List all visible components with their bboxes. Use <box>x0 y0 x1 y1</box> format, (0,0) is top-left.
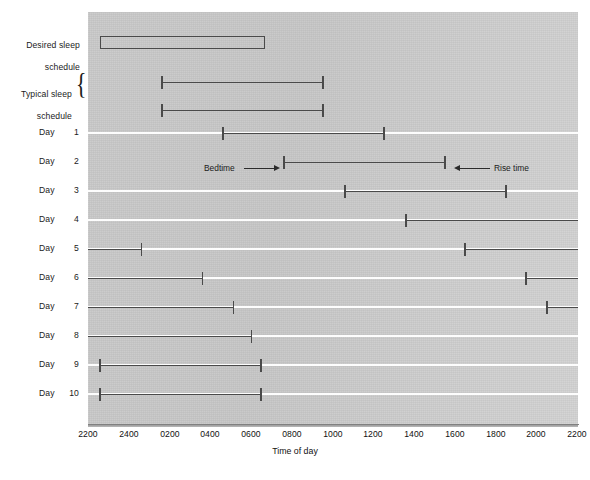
plot-area: Bedtime Rise time <box>88 12 578 424</box>
x-tick-label-7: 1200 <box>353 429 393 439</box>
sleep-schedule-figure: Bedtime Rise time Desired sleep schedule… <box>0 0 590 480</box>
row-label-day-9: Day9 <box>39 359 79 369</box>
day-word-5: Day <box>39 243 65 253</box>
bedtime-arrow-shaft <box>244 168 275 169</box>
row-label-day-5: Day5 <box>39 243 79 253</box>
day-number-7: 7 <box>65 301 79 311</box>
day-number-9: 9 <box>65 359 79 369</box>
row-label-day-6: Day6 <box>39 272 79 282</box>
row-label-day-10: Day10 <box>39 388 79 398</box>
desired-label-line2: schedule <box>4 62 80 73</box>
day-number-8: 8 <box>65 330 79 340</box>
x-tick-label-1: 2400 <box>109 429 149 439</box>
day-word-4: Day <box>39 214 65 224</box>
x-tick-label-4: 0600 <box>231 429 271 439</box>
day-word-2: Day <box>39 156 65 166</box>
row-label-day-3: Day3 <box>39 185 79 195</box>
x-axis-line <box>88 424 579 425</box>
row-label-day-8: Day8 <box>39 330 79 340</box>
day-number-1: 1 <box>65 127 79 137</box>
x-axis-title: Time of day <box>0 446 590 456</box>
row-label-desired-sleep-schedule: Desired sleep schedule <box>4 29 80 84</box>
day-word-7: Day <box>39 301 65 311</box>
day-number-5: 5 <box>65 243 79 253</box>
panel-texture <box>88 12 578 424</box>
typical-label-line2: schedule <box>4 111 72 122</box>
day-word-9: Day <box>39 359 65 369</box>
x-tick-label-3: 0400 <box>190 429 230 439</box>
typical-label-line1: Typical sleep <box>4 89 72 100</box>
x-tick-label-2: 0200 <box>150 429 190 439</box>
day-word-8: Day <box>39 330 65 340</box>
day-word-10: Day <box>39 388 65 398</box>
day-word-6: Day <box>39 272 65 282</box>
day-number-4: 4 <box>65 214 79 224</box>
x-tick-label-0: 2200 <box>68 429 108 439</box>
x-tick-label-8: 1400 <box>394 429 434 439</box>
x-tick-label-12: 2200 <box>557 429 590 439</box>
row-label-typical-sleep-schedule: Typical sleep schedule <box>4 78 72 133</box>
x-tick-label-6: 1000 <box>313 429 353 439</box>
x-tick-label-10: 1800 <box>476 429 516 439</box>
rise-time-arrow-shaft <box>459 168 490 169</box>
x-tick-label-9: 1600 <box>435 429 475 439</box>
x-tick-label-5: 0800 <box>272 429 312 439</box>
desired-sleep-schedule-bar <box>100 36 265 49</box>
day-number-10: 10 <box>65 388 79 398</box>
day-number-6: 6 <box>65 272 79 282</box>
day-word-1: Day <box>39 127 65 137</box>
bedtime-arrow-head-icon <box>274 165 280 171</box>
row-label-day-7: Day7 <box>39 301 79 311</box>
desired-label-line1: Desired sleep <box>4 40 80 51</box>
rise-time-label: Rise time <box>494 163 529 173</box>
wake-marker <box>444 156 446 169</box>
bedtime-label: Bedtime <box>204 163 235 173</box>
day-number-2: 2 <box>65 156 79 166</box>
row-label-day-2: Day2 <box>39 156 79 166</box>
row-label-day-4: Day4 <box>39 214 79 224</box>
row-label-day-1: Day1 <box>39 127 79 137</box>
x-tick-label-11: 2000 <box>516 429 556 439</box>
day-word-3: Day <box>39 185 65 195</box>
typical-schedule-brace-icon: { <box>76 68 87 98</box>
day-number-3: 3 <box>65 185 79 195</box>
